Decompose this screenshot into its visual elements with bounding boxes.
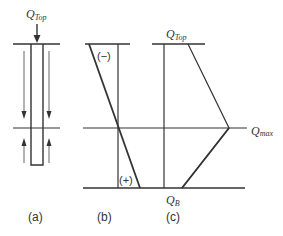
q-max-label: Qmax: [251, 124, 273, 138]
q-b-label: QB: [166, 193, 180, 208]
q-top-label-c: QTop: [166, 27, 186, 42]
positive-friction-label: (+): [119, 174, 133, 186]
panel-c: QTop Qmax QB (c): [152, 27, 273, 224]
caption-c: (c): [166, 210, 180, 224]
axial-load-distribution: [182, 44, 229, 188]
negative-friction-label: (−): [97, 50, 111, 62]
arrowhead-up-icon: [22, 138, 27, 146]
arrowhead-up-icon: [47, 138, 52, 146]
q-top-label-a: QTop: [26, 7, 46, 22]
arrowhead-down-icon: [47, 111, 52, 119]
applied-load-arrowhead-icon: [34, 35, 41, 43]
panel-b: (−) (+) (b): [85, 44, 140, 224]
axial-load-lower-segment: [182, 128, 229, 188]
arrowhead-down-icon: [22, 111, 27, 119]
panel-a: QTop (a): [13, 7, 60, 224]
caption-a: (a): [28, 210, 43, 224]
caption-b: (b): [97, 210, 112, 224]
pile-load-diagram: QTop (a) (−) (+) (b) QTop: [0, 0, 283, 236]
pile-shaft: [31, 44, 43, 165]
friction-distribution-line: [89, 44, 140, 188]
